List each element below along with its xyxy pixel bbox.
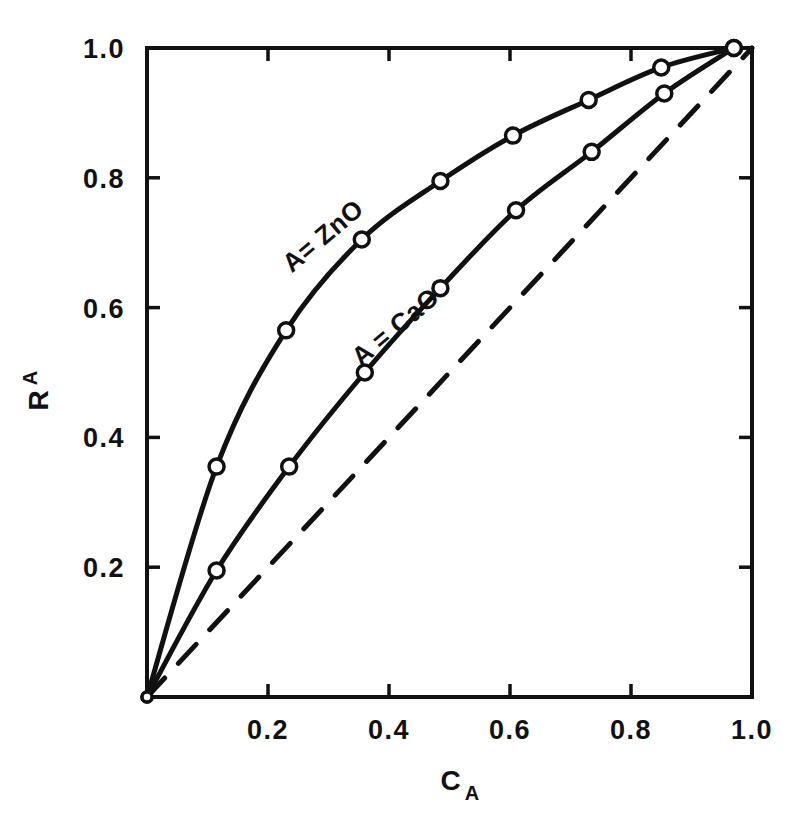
x-tick-label-0.4: 0.4: [368, 715, 410, 745]
curve-a-cao: [147, 48, 734, 697]
marker-a-zno-4: [433, 174, 448, 189]
marker-a-zno-5: [506, 128, 521, 143]
marker-a-zno-2: [279, 323, 294, 338]
scatter-plot-svg: 0.20.40.60.81.0 0.20.40.60.81.0 A= ZnOA …: [0, 0, 811, 831]
marker-a-cao-6: [584, 144, 599, 159]
y-axis-title-main: R: [23, 389, 54, 410]
marker-a-zno-1: [209, 459, 224, 474]
marker-a-cao-2: [282, 459, 297, 474]
chart-figure: 0.20.40.60.81.0 0.20.40.60.81.0 A= ZnOA …: [0, 0, 811, 831]
marker-a-zno-6: [581, 92, 596, 107]
marker-a-cao-7: [657, 86, 672, 101]
curve-label-a-cao: A = CaO: [346, 282, 445, 372]
data-curves: [147, 48, 752, 697]
marker-a-cao-5: [509, 203, 524, 218]
x-tick-label-0.8: 0.8: [610, 715, 652, 745]
x-axis-tick-labels: 0.20.40.60.81.0: [247, 715, 773, 745]
marker-a-zno-7: [654, 60, 669, 75]
y-axis-title: R A: [19, 371, 54, 411]
curve-reference-diagonal: [147, 48, 752, 697]
marker-a-cao-1: [209, 563, 224, 578]
x-tick-label-1.0: 1.0: [731, 715, 773, 745]
y-axis-title-subscript: A: [19, 371, 41, 385]
x-axis-title-subscript: A: [465, 782, 479, 804]
x-tick-label-0.6: 0.6: [489, 715, 531, 745]
data-point-markers: [142, 41, 741, 703]
y-axis-tick-labels: 0.20.40.60.81.0: [83, 34, 125, 583]
marker-a-cao-0: [142, 692, 152, 702]
y-axis-ticks: [147, 48, 752, 567]
y-tick-label-0.2: 0.2: [83, 553, 125, 583]
y-tick-label-0.8: 0.8: [83, 164, 125, 194]
x-axis-ticks: [268, 48, 752, 697]
annotation-group-1: A = CaO: [346, 282, 445, 372]
x-axis-title-main: C: [440, 765, 461, 796]
y-tick-label-0.4: 0.4: [83, 423, 125, 453]
y-tick-label-1.0: 1.0: [83, 34, 125, 64]
marker-a-cao-8: [726, 41, 741, 56]
y-tick-label-0.6: 0.6: [83, 294, 125, 324]
x-tick-label-0.2: 0.2: [247, 715, 289, 745]
curve-a-zno: [147, 48, 734, 697]
marker-a-zno-3: [354, 232, 369, 247]
curve-annotations: A= ZnOA = CaO: [276, 193, 445, 371]
x-axis-title: C A: [440, 765, 479, 804]
